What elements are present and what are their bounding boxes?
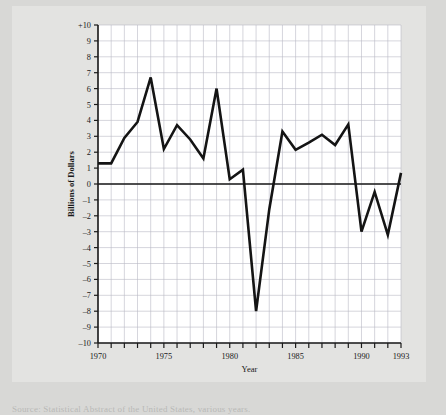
- y-tick-label: 1: [87, 164, 91, 173]
- y-tick-label: –3: [82, 228, 91, 237]
- figure-caption: Source: Statistical Abstract of the Unit…: [12, 404, 432, 415]
- y-tick-label: 0: [87, 180, 91, 189]
- y-tick-label: –6: [82, 275, 91, 284]
- line-chart: +109876543210–1–2–3–4–5–6–7–8–9–10 19701…: [12, 6, 426, 382]
- y-tick-label: –10: [78, 339, 91, 348]
- y-tick-label: –4: [82, 244, 92, 253]
- y-tick-label: 7: [87, 69, 91, 78]
- figure-panel: +109876543210–1–2–3–4–5–6–7–8–9–10 19701…: [12, 6, 426, 382]
- y-tick-label: –7: [82, 291, 91, 300]
- x-tick-label: 1990: [353, 352, 370, 361]
- y-tick-label: 8: [87, 53, 91, 62]
- chart-container: +109876543210–1–2–3–4–5–6–7–8–9–10 19701…: [12, 6, 426, 382]
- x-tick-label: 1975: [156, 352, 173, 361]
- y-tick-label: 3: [87, 132, 91, 141]
- y-tick-label: 9: [87, 37, 91, 46]
- x-tick-label: 1970: [90, 352, 107, 361]
- y-tick-label: –2: [82, 212, 91, 221]
- x-tick-label: 1980: [221, 352, 238, 361]
- y-tick-label: –1: [82, 196, 91, 205]
- x-tick-label: 1993: [393, 352, 410, 361]
- y-axis-title: Billions of Dollars: [66, 150, 76, 217]
- y-tick-label: –8: [82, 307, 91, 316]
- y-tick-label: 6: [87, 85, 91, 94]
- y-tick-label: +10: [78, 21, 91, 30]
- y-tick-label: –5: [82, 260, 91, 269]
- x-tick-label: 1985: [287, 352, 304, 361]
- y-tick-label: –9: [82, 323, 91, 332]
- y-tick-label: 5: [87, 101, 91, 110]
- figure-caption-strip: Source: Statistical Abstract of the Unit…: [12, 404, 432, 415]
- x-axis-title: Year: [242, 364, 258, 374]
- y-tick-label: 2: [87, 148, 91, 157]
- y-axis-ticks: [94, 25, 98, 343]
